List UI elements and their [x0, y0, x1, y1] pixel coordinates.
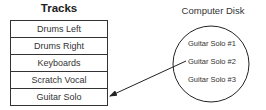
- arrow-line: [110, 61, 186, 96]
- disk-item: Guitar Solo #2: [177, 57, 247, 66]
- disk-item: Guitar Solo #3: [177, 75, 247, 84]
- diagram-graphics: [0, 0, 266, 110]
- disk-item: Guitar Solo #1: [177, 39, 247, 48]
